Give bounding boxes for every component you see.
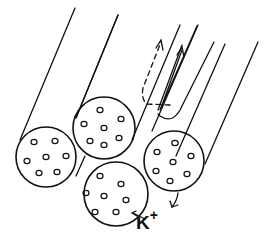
arrow-down-right <box>170 193 178 207</box>
ion-charge: + <box>150 207 158 223</box>
cylinder-top-middle-dots <box>81 107 124 147</box>
solid-arrow-up <box>161 47 184 108</box>
cylinder-bottom-middle-dots <box>83 173 129 214</box>
cylinder-right-dots <box>153 140 194 183</box>
cylinder-top-middle <box>73 15 180 159</box>
cylinder-left-dots <box>24 138 69 175</box>
potassium-ion-label: K+ <box>136 210 158 232</box>
ion-symbol: K <box>136 212 150 233</box>
fiber-bundle-diagram <box>0 0 274 239</box>
